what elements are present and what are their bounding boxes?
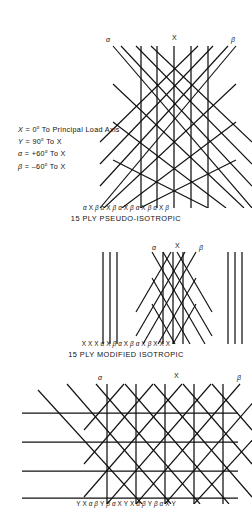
axis-label-beta-3: β	[237, 374, 241, 381]
ply-symbol: X	[106, 340, 110, 347]
ply-symbol: Y	[124, 500, 128, 507]
ply-symbol: β	[130, 204, 134, 211]
axis-label-x-1: X	[172, 34, 177, 41]
ply-symbol: X	[88, 340, 92, 347]
ply-symbol: α	[83, 204, 87, 211]
lattice-pseudo-isotropic	[0, 36, 252, 208]
ply-symbol: X	[153, 340, 157, 347]
lattice-modified-isotropic	[0, 248, 252, 344]
ply-symbol: X	[82, 500, 86, 507]
ply-symbol: X	[166, 340, 170, 347]
ply-symbol: X	[165, 500, 169, 507]
ply-symbol: β	[148, 340, 152, 347]
ply-symbol: X	[141, 204, 145, 211]
axis-label-beta-2: β	[199, 244, 203, 251]
lattice-woven-isotropic	[0, 374, 252, 504]
diagram-page: X = 0o To Principal Load Axis Y = 90o To…	[0, 0, 252, 518]
ply-symbol: α	[136, 340, 140, 347]
axis-label-beta-1: β	[231, 36, 235, 43]
ply-symbol: X	[106, 204, 110, 211]
ply-symbol: X	[141, 340, 145, 347]
ply-symbol: X	[124, 340, 128, 347]
ply-symbol: α	[112, 500, 116, 507]
ply-symbol: α	[153, 204, 157, 211]
ply-symbol: β	[106, 500, 110, 507]
ply-symbol: β	[154, 500, 158, 507]
ply-symbol: α	[160, 500, 164, 507]
ply-sequence-pseudo-isotropic: α X β α X β α X β α X β α X β	[0, 204, 252, 211]
ply-symbol: Y	[76, 500, 80, 507]
figure-woven-isotropic: α X β	[0, 374, 252, 504]
ply-symbol: Y	[171, 500, 175, 507]
ply-symbol: α	[89, 500, 93, 507]
ply-symbol: β	[165, 204, 169, 211]
ply-symbol: X	[124, 204, 128, 211]
ply-symbol: X	[82, 340, 86, 347]
ply-symbol: β	[142, 500, 146, 507]
axis-label-alpha-2: α	[152, 244, 156, 251]
ply-symbol: β	[94, 500, 98, 507]
ply-symbol: X	[118, 500, 122, 507]
ply-symbol: α	[136, 500, 140, 507]
ply-symbol: X	[94, 340, 98, 347]
ply-sequence-woven-isotropic: Y X α β Y β α X Y X α β Y β α X Y	[0, 500, 252, 507]
axis-label-x-2: X	[175, 242, 180, 249]
caption-modified-isotropic: 15 PLY MODIFIED ISOTROPIC	[0, 350, 252, 359]
ply-symbol: α	[118, 340, 122, 347]
figure-pseudo-isotropic: α X β	[0, 36, 252, 208]
ply-symbol: β	[113, 204, 117, 211]
ply-symbol: β	[130, 340, 134, 347]
ply-symbol: β	[95, 204, 99, 211]
ply-symbol: α	[136, 204, 140, 211]
ply-symbol: β	[148, 204, 152, 211]
ply-symbol: X	[89, 204, 93, 211]
ply-symbol: Y	[148, 500, 152, 507]
ply-sequence-modified-isotropic: X X X α X β α X β α X β X X X	[0, 340, 252, 347]
axis-label-alpha-1: α	[106, 36, 110, 43]
ply-symbol: X	[130, 500, 134, 507]
ply-symbol: β	[113, 340, 117, 347]
caption-pseudo-isotropic: 15 PLY PSEUDO-ISOTROPIC	[0, 214, 252, 223]
figure-modified-isotropic: α X β	[0, 248, 252, 344]
ply-symbol: Y	[100, 500, 104, 507]
ply-symbol: α	[101, 340, 105, 347]
axis-label-alpha-3: α	[98, 374, 102, 381]
axis-label-x-3: X	[174, 372, 179, 379]
ply-symbol: X	[159, 204, 163, 211]
ply-symbol: X	[160, 340, 164, 347]
ply-symbol: α	[118, 204, 122, 211]
ply-symbol: α	[101, 204, 105, 211]
